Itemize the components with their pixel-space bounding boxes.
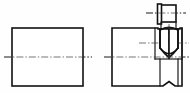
upper-boss-bolt [146,4,186,28]
bolt-head-rectangle [161,5,176,22]
left-elevation-view [4,28,92,86]
bolt-flange-rectangle [158,4,162,24]
right-section-view [104,4,189,86]
technical-drawing-svg [0,0,190,93]
technical-drawing-canvas: Two-view mechanical part drawing Plain r… [0,0,190,93]
